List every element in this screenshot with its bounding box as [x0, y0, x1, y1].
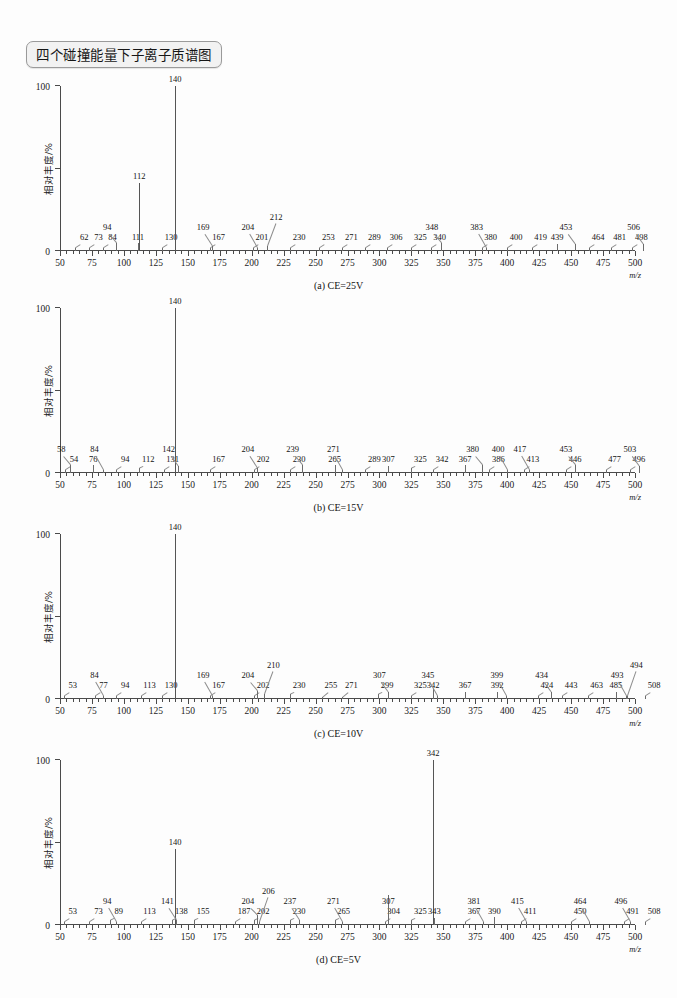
x-tick-major [124, 251, 125, 256]
x-tick-label: 350 [436, 706, 450, 716]
x-tick-minor [469, 925, 470, 928]
peak-label: 94 [103, 896, 112, 906]
panel-caption-d: (d) CE=5V [0, 954, 677, 965]
peak-label-leader [589, 244, 594, 248]
peak-label: 237 [284, 896, 297, 906]
peak-label-leader [465, 918, 470, 922]
x-tick-minor [233, 925, 234, 928]
peak-label-leader [475, 456, 483, 465]
peak-label-leader [76, 244, 81, 248]
x-tick-minor [226, 699, 227, 702]
x-tick-label: 125 [149, 706, 163, 716]
x-tick-label: 425 [532, 706, 546, 716]
x-tick-minor [399, 925, 400, 928]
x-tick-major [475, 925, 476, 930]
x-tick-major [539, 473, 540, 478]
y-axis-title: 相对丰度/% [41, 816, 55, 868]
x-tick-major [475, 473, 476, 478]
spectrum-peak [465, 692, 466, 699]
x-tick-minor [86, 925, 87, 928]
spectrum-peak [267, 246, 268, 251]
x-tick-minor [526, 925, 527, 928]
peak-label: 167 [212, 454, 225, 464]
x-tick-minor [526, 251, 527, 254]
peak-label: 494 [630, 660, 643, 670]
peak-label-leader [568, 234, 576, 245]
x-tick-minor [456, 925, 457, 928]
x-tick-major [220, 473, 221, 478]
x-tick-label: 150 [181, 706, 195, 716]
x-tick-minor [367, 699, 368, 702]
x-tick-minor [303, 251, 304, 254]
x-tick-major [156, 251, 157, 256]
peak-label: 271 [345, 680, 358, 690]
x-tick-minor [239, 699, 240, 702]
x-tick-label: 250 [308, 480, 322, 490]
x-tick-minor [405, 473, 406, 476]
x-tick-minor [622, 925, 623, 928]
peak-label: 289 [368, 232, 381, 242]
peak-label: 84 [90, 670, 99, 680]
x-tick-major [284, 473, 285, 478]
x-tick-major [220, 699, 221, 704]
peak-label: 94 [121, 680, 130, 690]
x-tick-minor [520, 251, 521, 254]
spectrum-peak [465, 465, 466, 473]
peak-label-leader [343, 692, 349, 697]
peak-label: 307 [373, 670, 386, 680]
x-tick-minor [597, 925, 598, 928]
x-tick-minor [373, 925, 374, 928]
x-tick-major [348, 699, 349, 704]
peak-label: 342 [436, 454, 449, 464]
x-tick-label: 450 [564, 480, 578, 490]
x-tick-minor [296, 925, 297, 928]
x-tick-major [603, 473, 604, 478]
x-tick-minor [290, 925, 291, 928]
x-tick-minor [309, 473, 310, 476]
spectrum-peak [335, 465, 336, 473]
x-tick-minor [86, 699, 87, 702]
peak-label: 325 [414, 680, 427, 690]
peak-label: 306 [390, 232, 403, 242]
peak-label-leader [571, 918, 576, 922]
x-tick-minor [341, 473, 342, 476]
x-tick-minor [482, 473, 483, 476]
x-tick-label: 250 [308, 932, 322, 942]
x-tick-minor [533, 473, 534, 476]
x-tick-label: 150 [181, 258, 195, 268]
x-tick-minor [111, 925, 112, 928]
x-tick-minor [392, 925, 393, 928]
spectrum-peak [93, 465, 94, 473]
x-tick-minor [290, 251, 291, 254]
x-tick-minor [469, 699, 470, 702]
plot-area-d: 相对丰度/%0100507510012515017520022525027530… [60, 760, 635, 925]
x-tick-minor [386, 925, 387, 928]
x-tick-minor [258, 699, 259, 702]
x-tick-label: 375 [468, 706, 482, 716]
x-tick-major [443, 251, 444, 256]
y-tick [55, 533, 60, 534]
peak-label: 202 [257, 454, 270, 464]
x-tick-label: 475 [596, 480, 610, 490]
x-tick-minor [162, 251, 163, 254]
x-tick-minor [629, 473, 630, 476]
peak-label: 496 [615, 896, 628, 906]
x-tick-minor [322, 251, 323, 254]
x-tick-label: 475 [596, 706, 610, 716]
x-tick-minor [130, 473, 131, 476]
peak-label: 230 [293, 232, 306, 242]
y-tick-label: 100 [36, 530, 50, 540]
spectrum-peak [506, 696, 507, 699]
x-tick-minor [309, 251, 310, 254]
x-tick-major [60, 251, 61, 256]
spectrum-peak [257, 915, 258, 925]
x-tick-label: 325 [404, 480, 418, 490]
x-tick-minor [137, 251, 138, 254]
peak-label-leader [378, 692, 382, 695]
x-tick-minor [149, 251, 150, 254]
plot-area-a: 相对丰度/%0100507510012515017520022525027530… [60, 86, 635, 251]
peak-label-leader [140, 466, 144, 469]
peak-label: 62 [80, 232, 89, 242]
spectrum-peak [290, 920, 291, 925]
x-tick-minor [431, 925, 432, 928]
